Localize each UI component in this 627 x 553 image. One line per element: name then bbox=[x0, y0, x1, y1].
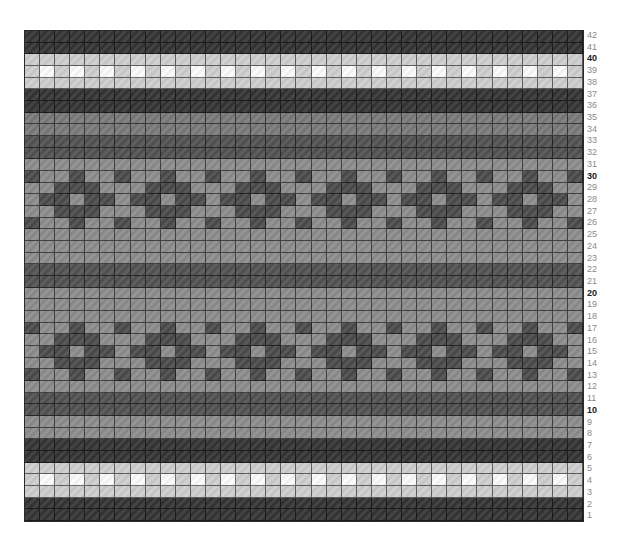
chart-cell bbox=[523, 113, 538, 125]
chart-cell bbox=[266, 439, 281, 451]
chart-cell bbox=[236, 31, 251, 43]
chart-cell bbox=[115, 276, 130, 288]
chart-cell bbox=[55, 218, 70, 230]
chart-cell bbox=[281, 183, 296, 195]
chart-cell bbox=[236, 498, 251, 510]
row-label: 31 bbox=[587, 159, 597, 171]
chart-cell bbox=[477, 463, 492, 475]
chart-cell bbox=[85, 404, 100, 416]
chart-cell bbox=[372, 171, 387, 183]
chart-cell bbox=[191, 241, 206, 253]
chart-cell bbox=[115, 323, 130, 335]
chart-cell bbox=[236, 463, 251, 475]
chart-cell bbox=[131, 393, 146, 405]
chart-cell bbox=[402, 276, 417, 288]
chart-cell bbox=[523, 206, 538, 218]
chart-cell bbox=[508, 136, 523, 148]
chart-cell bbox=[387, 276, 402, 288]
chart-cell bbox=[176, 498, 191, 510]
chart-cell bbox=[206, 451, 221, 463]
chart-cell bbox=[251, 78, 266, 90]
row-label: 30 bbox=[587, 171, 597, 183]
row-label: 40 bbox=[587, 53, 597, 65]
chart-cell bbox=[161, 183, 176, 195]
row-label: 35 bbox=[587, 112, 597, 124]
chart-cell bbox=[417, 498, 432, 510]
chart-cell bbox=[161, 451, 176, 463]
chart-cell bbox=[176, 276, 191, 288]
chart-cell bbox=[25, 89, 40, 101]
chart-cell bbox=[538, 404, 553, 416]
row-label: 7 bbox=[587, 440, 592, 452]
chart-cell bbox=[236, 288, 251, 300]
chart-cell bbox=[477, 43, 492, 55]
chart-cell bbox=[357, 66, 372, 78]
chart-cell bbox=[312, 171, 327, 183]
chart-cell bbox=[221, 54, 236, 66]
chart-cell bbox=[40, 183, 55, 195]
chart-cell bbox=[25, 498, 40, 510]
chart-cell bbox=[508, 54, 523, 66]
chart-cell bbox=[553, 463, 568, 475]
row-label: 17 bbox=[587, 323, 597, 335]
chart-cell bbox=[131, 509, 146, 521]
chart-cell bbox=[387, 439, 402, 451]
chart-cell bbox=[432, 78, 447, 90]
chart-cell bbox=[100, 428, 115, 440]
chart-cell bbox=[447, 171, 462, 183]
chart-cell bbox=[251, 451, 266, 463]
chart-cell bbox=[477, 218, 492, 230]
chart-cell bbox=[538, 288, 553, 300]
chart-cell bbox=[357, 463, 372, 475]
chart-cell bbox=[236, 78, 251, 90]
chart-cell bbox=[70, 66, 85, 78]
chart-cell bbox=[100, 358, 115, 370]
chart-cell bbox=[206, 311, 221, 323]
chart-cell bbox=[477, 439, 492, 451]
chart-cell bbox=[387, 78, 402, 90]
chart-cell bbox=[176, 299, 191, 311]
chart-cell bbox=[236, 113, 251, 125]
chart-cell bbox=[568, 171, 583, 183]
row-label: 39 bbox=[587, 65, 597, 77]
chart-cell bbox=[115, 241, 130, 253]
chart-cell bbox=[493, 54, 508, 66]
chart-cell bbox=[357, 358, 372, 370]
chart-cell bbox=[251, 323, 266, 335]
chart-cell bbox=[55, 393, 70, 405]
chart-cell bbox=[387, 206, 402, 218]
chart-cell bbox=[221, 183, 236, 195]
chart-cell bbox=[372, 369, 387, 381]
chart-cell bbox=[266, 381, 281, 393]
chart-cell bbox=[327, 334, 342, 346]
chart-cell bbox=[221, 241, 236, 253]
chart-cell bbox=[40, 439, 55, 451]
chart-cell bbox=[327, 416, 342, 428]
chart-cell bbox=[85, 264, 100, 276]
chart-cell bbox=[296, 276, 311, 288]
chart-cell bbox=[236, 194, 251, 206]
chart-cell bbox=[161, 264, 176, 276]
chart-cell bbox=[25, 171, 40, 183]
chart-cell bbox=[417, 89, 432, 101]
chart-cell bbox=[402, 54, 417, 66]
chart-cell bbox=[553, 369, 568, 381]
chart-cell bbox=[115, 253, 130, 265]
chart-cell bbox=[357, 393, 372, 405]
chart-cell bbox=[387, 334, 402, 346]
chart-cell bbox=[432, 113, 447, 125]
chart-cell bbox=[100, 276, 115, 288]
chart-cell bbox=[115, 159, 130, 171]
chart-cell bbox=[357, 416, 372, 428]
chart-cell bbox=[447, 381, 462, 393]
chart-cell bbox=[357, 206, 372, 218]
chart-cell bbox=[70, 136, 85, 148]
chart-cell bbox=[493, 404, 508, 416]
chart-cell bbox=[538, 218, 553, 230]
chart-cell bbox=[447, 369, 462, 381]
chart-cell bbox=[493, 218, 508, 230]
chart-cell bbox=[327, 369, 342, 381]
chart-cell bbox=[266, 101, 281, 113]
chart-cell bbox=[538, 323, 553, 335]
chart-cell bbox=[70, 428, 85, 440]
